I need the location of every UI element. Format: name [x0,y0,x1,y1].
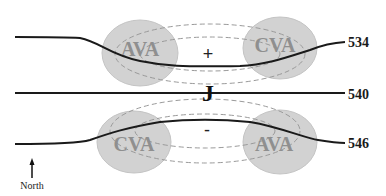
negative-sign: - [204,120,210,140]
contour-label-546: 546 [348,136,369,151]
jet-label: J [202,80,214,106]
cva-lower-label: CVA [114,133,155,155]
diagram-svg: AVA CVA CVA AVA 534 540 546 + - J North [0,0,386,196]
positive-sign: + [203,44,214,64]
north-label: North [20,180,43,191]
cva-upper-label: CVA [255,34,296,56]
contour-label-540: 540 [348,87,369,102]
vorticity-diagram: AVA CVA CVA AVA 534 540 546 + - J North [0,0,386,196]
north-arrow-icon [30,158,35,178]
ava-lower-label: AVA [255,133,294,155]
contour-label-534: 534 [348,35,369,50]
